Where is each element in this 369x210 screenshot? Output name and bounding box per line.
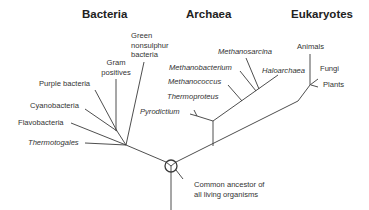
label-green-nonsulphur: Green nonsulphur bacteria [131,31,169,60]
ancestor-pointer [176,170,183,179]
label-purple-bacteria: Purple bacteria [39,79,90,88]
label-plants: Plants [323,80,344,89]
label-methanobacterium: Methanobacterium [169,63,232,72]
label-methanococcus: Methanococcus [168,77,221,86]
branch-plants [311,85,318,87]
bacteria-stem [126,145,166,162]
label-thermoproteus: Thermoproteus [167,92,219,101]
label-common-ancestor: Common ancestor of all living organisms [194,180,264,199]
label-thermotogales: Thermotogales [28,138,79,147]
node-tick-c [171,162,176,166]
branch-methanosarcina [246,58,259,89]
branch-flavobacteria [71,123,126,145]
trunk-eukaryotes [298,85,310,101]
label-cyanobacteria: Cyanobacteria [30,101,79,110]
label-line: positives [100,68,132,78]
branch-cyanobacteria [85,109,117,131]
label-line: bacteria [131,50,169,60]
label-line: Gram [100,58,132,68]
node-tick-b [166,162,171,166]
label-methanosarcina: Methanosarcina [218,47,272,56]
heading-archaea: Archaea [186,8,231,20]
heading-bacteria: Bacteria [82,8,127,20]
label-pyrodictium: Pyrodictium [140,107,180,116]
label-line: Common ancestor of [194,180,264,190]
label-haloarchaea: Haloarchaea [262,66,305,75]
branch-methanobacterium [240,71,256,91]
branch-pyrodictium-thermoproteus [197,116,213,121]
archaea-main [213,75,278,121]
branch-purple-bacteria [95,90,117,131]
label-line: Green [131,31,169,41]
label-animals: Animals [297,42,324,51]
label-gram-positives: Gram positives [100,58,132,77]
label-flavobacteria: Flavobacteria [18,118,64,127]
branch-fungi [310,79,318,85]
label-fungi: Fungi [320,64,339,73]
heading-eukaryotes: Eukaryotes [291,8,353,20]
label-line: nonsulphur [131,41,169,51]
branch-thermotogales [85,143,126,145]
branch-methanococcus [228,85,242,101]
label-line: all living organisms [194,190,264,200]
